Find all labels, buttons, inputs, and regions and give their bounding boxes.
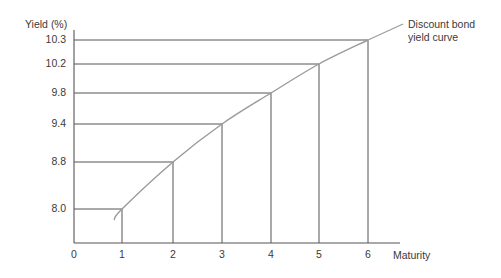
y-tick-label: 8.8 [51,156,66,167]
curve-label-line2: yield curve [408,31,475,44]
curve-label-line1: Discount bond [408,18,475,31]
yield-curve-line [114,40,368,220]
y-tick-label: 8.0 [51,203,66,214]
x-tick-label: 1 [119,249,125,260]
x-tick-label: 2 [170,249,176,260]
y-axis-label: Yield (%) [25,19,67,30]
y-tick-label: 10.2 [46,58,66,69]
curve-label-leader [368,24,403,40]
x-tick-label: 3 [219,249,225,260]
y-tick-label: 10.3 [46,34,66,45]
x-tick-label: 5 [316,249,322,260]
x-axis-label: Maturity [393,250,430,261]
y-tick-label: 9.4 [51,118,66,129]
x-tick-label: 4 [268,249,274,260]
x-tick-label: 6 [365,249,371,260]
curve-label: Discount bond yield curve [408,18,475,44]
y-tick-label: 9.8 [51,87,66,98]
x-tick-label: 0 [71,249,77,260]
